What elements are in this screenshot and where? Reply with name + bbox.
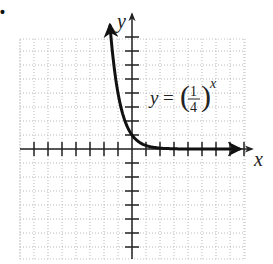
x-axis-label: x <box>253 148 263 170</box>
exponential-curve <box>110 26 240 149</box>
equation-label: y = ( 1 4 ) x <box>148 76 217 115</box>
equation-exponent: x <box>209 76 217 91</box>
plot-area: y x y = ( 1 4 ) x <box>0 0 273 264</box>
equation-denominator: 4 <box>190 100 197 115</box>
graph: • y x y = ( 1 4 ) x <box>0 0 273 264</box>
equation-left-paren: ( <box>180 79 190 113</box>
equation-equals: = <box>163 87 174 108</box>
y-axis-label: y <box>115 10 126 33</box>
equation-numerator: 1 <box>190 84 197 99</box>
equation-lhs: y <box>148 87 159 108</box>
